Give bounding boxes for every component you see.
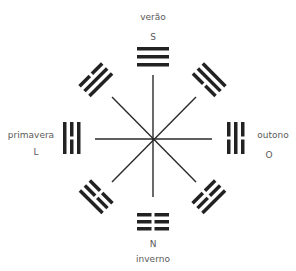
- trigram-bottom-right-gen: [191, 179, 226, 214]
- compass-spokes: [95, 75, 212, 197]
- season-label-top: verão: [133, 13, 173, 22]
- direction-label-bottom: N: [143, 240, 163, 249]
- trigram-right-kan: [227, 122, 245, 154]
- direction-label-left: L: [31, 148, 41, 157]
- trigram-top-right-xun: [192, 62, 227, 97]
- trigram-bottom-kun: [137, 213, 169, 231]
- season-label-bottom: inverno: [128, 255, 178, 264]
- direction-label-right: O: [264, 151, 274, 160]
- season-label-left: primavera: [6, 131, 56, 140]
- trigram-top-left-dui: [78, 62, 113, 97]
- trigram-top-qian: [137, 47, 169, 67]
- trigram-bottom-left-zhen: [79, 179, 114, 214]
- season-label-right: outono: [253, 131, 293, 140]
- direction-label-top: S: [143, 33, 163, 42]
- trigram-left-li: [63, 122, 81, 154]
